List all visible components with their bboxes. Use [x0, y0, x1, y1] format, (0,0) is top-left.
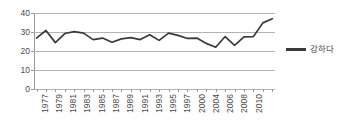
x-tick-label: 2008 — [240, 94, 249, 113]
x-tick-mark — [197, 89, 198, 92]
y-tick-label-0: 0 — [4, 85, 30, 94]
x-tick-mark — [93, 89, 94, 92]
x-tick-mark — [140, 89, 141, 92]
x-tick-label: 1991 — [141, 94, 150, 113]
x-tick-label: 1981 — [69, 94, 78, 113]
legend-item-label: 강하다 — [310, 45, 334, 54]
y-tick-label-30: 30 — [4, 28, 30, 37]
x-tick-label: 1983 — [83, 94, 92, 113]
x-tick-mark — [216, 89, 217, 92]
line-chart: 40 30 20 10 0 19771979198119831985198719… — [0, 0, 354, 135]
x-tick-mark — [253, 89, 254, 92]
x-tick-label: 1977 — [41, 94, 50, 113]
x-tick-mark — [235, 89, 236, 92]
x-tick-mark — [65, 89, 66, 92]
x-tick-mark — [187, 89, 188, 92]
x-axis-labels: 1977197919811983198519871989199119931995… — [34, 89, 275, 135]
x-tick-label: 1993 — [155, 94, 164, 113]
x-tick-mark — [112, 89, 113, 92]
x-tick-label: 1979 — [55, 94, 64, 113]
x-tick-label: 2000 — [198, 94, 207, 113]
x-tick-mark — [46, 89, 47, 92]
x-tick-mark — [272, 89, 273, 92]
x-tick-mark — [84, 89, 85, 92]
x-tick-label: 1995 — [169, 94, 178, 113]
x-tick-mark — [169, 89, 170, 92]
x-tick-mark — [74, 89, 75, 92]
x-tick-mark — [37, 89, 38, 92]
x-tick-mark — [206, 89, 207, 92]
x-tick-label: 2006 — [226, 94, 235, 113]
x-tick-label: 1989 — [126, 94, 135, 113]
x-tick-mark — [131, 89, 132, 92]
x-tick-mark — [159, 89, 160, 92]
y-tick-label-20: 20 — [4, 47, 30, 56]
x-tick-label: 1987 — [112, 94, 121, 113]
x-tick-label: 2004 — [212, 94, 221, 113]
y-tick-label-40: 40 — [4, 9, 30, 18]
legend: 강하다 — [286, 45, 334, 54]
x-tick-mark — [244, 89, 245, 92]
plot-area — [34, 13, 275, 89]
x-tick-mark — [150, 89, 151, 92]
legend-color-swatch — [286, 48, 306, 51]
x-tick-mark — [121, 89, 122, 92]
x-tick-label: 2010 — [255, 94, 264, 113]
x-tick-label: 1997 — [183, 94, 192, 113]
series-strong-line — [34, 13, 275, 89]
y-tick-label-10: 10 — [4, 66, 30, 75]
x-tick-mark — [263, 89, 264, 92]
x-tick-mark — [225, 89, 226, 92]
y-axis-labels: 40 30 20 10 0 — [0, 0, 30, 135]
x-tick-mark — [103, 89, 104, 92]
x-tick-mark — [55, 89, 56, 92]
x-tick-label: 1985 — [98, 94, 107, 113]
x-tick-mark — [178, 89, 179, 92]
